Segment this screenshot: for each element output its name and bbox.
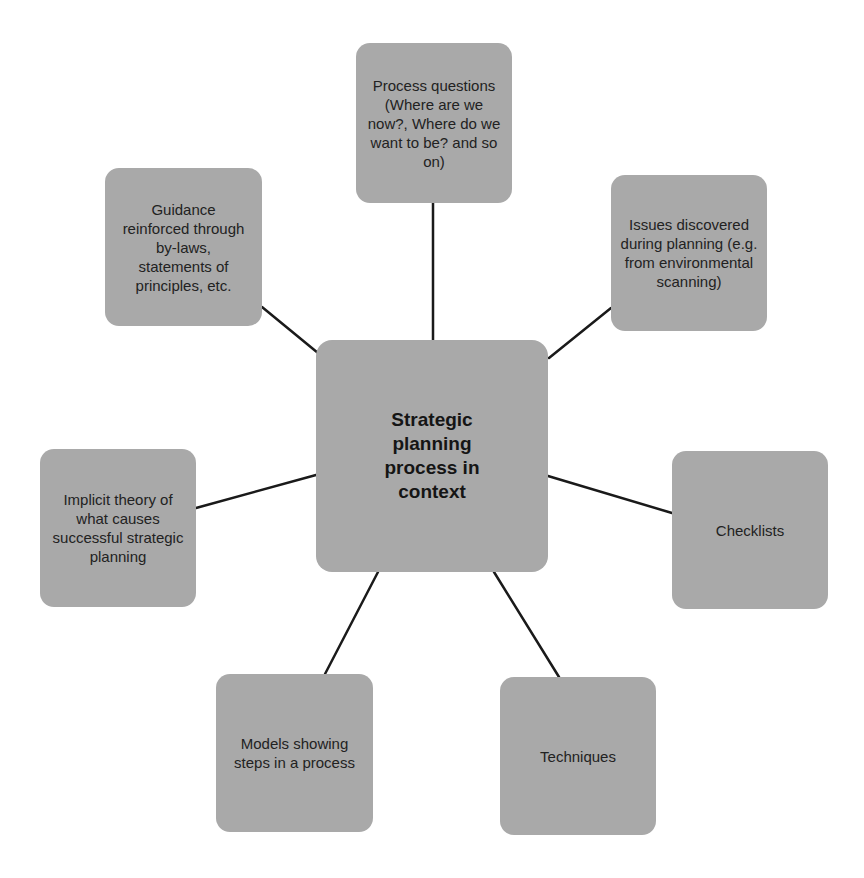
node-label: Issues discovered during planning (e.g. … <box>619 215 759 291</box>
connector-guidance <box>262 307 318 353</box>
connector-techniques <box>494 572 559 677</box>
node-label: Guidance reinforced through by-laws, sta… <box>119 200 248 295</box>
node-issues: Issues discovered during planning (e.g. … <box>611 175 767 331</box>
node-label: Techniques <box>540 747 616 766</box>
connector-checklists <box>548 476 672 513</box>
node-checklists: Checklists <box>672 451 828 609</box>
node-guidance: Guidance reinforced through by-laws, sta… <box>105 168 262 326</box>
center-label: Strategic planning process in context <box>356 408 508 504</box>
node-label: Process questions (Where are we now?, Wh… <box>364 76 504 171</box>
center-node: Strategic planning process in context <box>316 340 548 572</box>
node-techniques: Techniques <box>500 677 656 835</box>
connector-implicit-theory <box>196 475 316 508</box>
node-process-questions: Process questions (Where are we now?, Wh… <box>356 43 512 203</box>
node-implicit-theory: Implicit theory of what causes successfu… <box>40 449 196 607</box>
connector-models <box>325 572 378 674</box>
node-label: Checklists <box>716 521 784 540</box>
node-models: Models showing steps in a process <box>216 674 373 832</box>
connector-issues <box>549 308 611 358</box>
node-label: Models showing steps in a process <box>232 734 357 772</box>
strategic-planning-diagram: Strategic planning process in context Pr… <box>0 0 864 878</box>
node-label: Implicit theory of what causes successfu… <box>48 490 188 566</box>
